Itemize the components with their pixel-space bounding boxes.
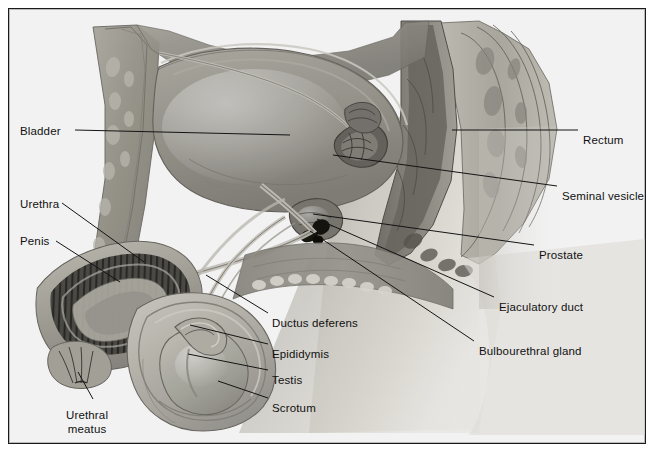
label-scrotum: Scrotum <box>272 402 316 415</box>
label-prostate: Prostate <box>539 249 583 262</box>
label-penis: Penis <box>20 235 50 248</box>
anatomy-figure: BladderUrethraPenisUrethralmeatusDuctus … <box>0 0 656 454</box>
label-urethra: Urethra <box>20 198 59 211</box>
label-urethral-meatus-line-1: Urethral <box>66 408 108 422</box>
label-seminal-vesicle: Seminal vesicle <box>562 190 644 203</box>
label-urethral-meatus-line-2: meatus <box>66 422 108 436</box>
label-ductus-deferens: Ductus deferens <box>272 317 358 330</box>
label-testis: Testis <box>272 374 302 387</box>
label-ejaculatory-duct: Ejaculatory duct <box>499 301 583 314</box>
label-urethral-meatus: Urethralmeatus <box>66 408 108 436</box>
label-epididymis: Epididymis <box>272 348 329 361</box>
label-bladder: Bladder <box>20 125 61 138</box>
label-bulbourethral-gland: Bulbourethral gland <box>479 345 582 358</box>
anatomy-illustration <box>9 9 645 443</box>
label-rectum: Rectum <box>583 134 624 147</box>
